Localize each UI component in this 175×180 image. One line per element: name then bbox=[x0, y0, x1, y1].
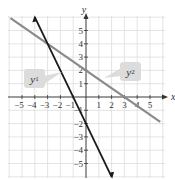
svg-text:−3: −3 bbox=[40, 100, 50, 110]
y2-label: y2 bbox=[120, 62, 141, 81]
svg-text:−3: −3 bbox=[73, 132, 83, 142]
svg-text:−2: −2 bbox=[73, 119, 83, 129]
svg-text:−5: −5 bbox=[73, 159, 83, 169]
coordinate-plane: −5−4−3−2−112345−5−4−3−2−112345xy bbox=[0, 0, 175, 180]
axes bbox=[8, 13, 168, 178]
svg-text:4: 4 bbox=[79, 39, 84, 49]
svg-text:1: 1 bbox=[79, 79, 84, 89]
svg-text:1: 1 bbox=[97, 100, 102, 110]
svg-text:5: 5 bbox=[79, 26, 84, 36]
svg-text:3: 3 bbox=[122, 100, 127, 110]
y1-label-subscript: 1 bbox=[35, 75, 39, 83]
y1-label: y1 bbox=[24, 69, 45, 88]
y2-label-pointer bbox=[104, 68, 122, 80]
svg-text:2: 2 bbox=[109, 100, 114, 110]
svg-text:x: x bbox=[170, 91, 175, 102]
y1-label-pointer bbox=[44, 72, 64, 86]
svg-text:−2: −2 bbox=[53, 100, 63, 110]
svg-text:−4: −4 bbox=[73, 145, 83, 155]
svg-text:y: y bbox=[81, 4, 87, 15]
svg-text:5: 5 bbox=[148, 100, 153, 110]
svg-text:−5: −5 bbox=[14, 100, 24, 110]
y2-label-subscript: 2 bbox=[131, 68, 135, 76]
svg-text:−4: −4 bbox=[27, 100, 37, 110]
svg-text:3: 3 bbox=[79, 52, 84, 62]
